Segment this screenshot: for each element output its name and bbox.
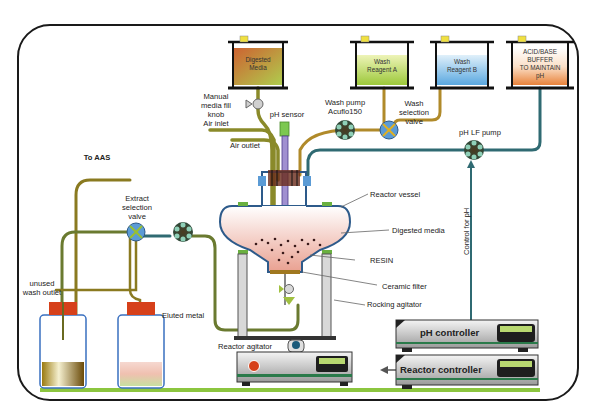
- label-manual-fill: Manual: [204, 92, 229, 101]
- label-to-aas: To AAS: [84, 153, 111, 162]
- reactor-controller[interactable]: Reactor controller: [396, 355, 538, 389]
- bottle-eluted-metal: [118, 302, 164, 388]
- extract-selection-valve-icon[interactable]: [127, 223, 145, 241]
- tank-label: BUFFER: [527, 56, 553, 63]
- label-extract-valve: selection: [122, 203, 152, 212]
- wash-pump-icon[interactable]: [335, 120, 355, 140]
- label-control-for-ph: Control for pH: [462, 208, 471, 255]
- label-wash-valve: Wash: [404, 99, 423, 108]
- floor-line: [40, 388, 540, 392]
- label-wash-valve: valve: [405, 117, 423, 126]
- wash-selection-valve-icon[interactable]: [380, 121, 398, 139]
- ceramic-filter: [270, 270, 300, 274]
- label-reactor-agitator: Reactor agitator: [218, 342, 272, 351]
- label-reactor-vessel: Reactor vessel: [370, 190, 421, 199]
- extract-pump-icon[interactable]: [173, 222, 193, 242]
- label-extract-valve: Extract: [125, 194, 150, 203]
- tank-label: ACID/BASE: [523, 48, 557, 55]
- ph-controller[interactable]: pH controller: [396, 320, 538, 352]
- tank-label: Reagent B: [447, 66, 477, 74]
- label-rocking-agitator: Rocking agitator: [367, 300, 422, 309]
- tank-wash-reagent-a: Wash Reagent A: [350, 36, 414, 88]
- label-ph-lf-pump: pH LF pump: [459, 128, 501, 137]
- diagram-canvas: Digested Media Wash Reagent A Wash Reage…: [0, 0, 595, 413]
- tank-label: Digested: [245, 56, 271, 64]
- label-ceramic-filter: Ceramic filter: [382, 282, 427, 291]
- drain-valve-icon[interactable]: [279, 274, 295, 305]
- tank-digested-media: Digested Media: [228, 36, 288, 88]
- label-air-outlet: Air outlet: [230, 141, 261, 150]
- arrow-head-reactor: [380, 366, 388, 374]
- label-wash-valve: selection: [399, 108, 429, 117]
- bottle-unused-wash: [40, 302, 86, 388]
- tank-acid-base-buffer: ACID/BASE BUFFER TO MAINTAIN pH: [506, 36, 574, 88]
- tank-label: Reagent A: [367, 66, 398, 74]
- tank-label: Media: [249, 64, 267, 71]
- tank-label: Wash: [454, 58, 471, 65]
- reactor-agitator-unit[interactable]: [237, 352, 352, 386]
- reactor-controller-label: Reactor controller: [400, 364, 482, 375]
- label-wash-pump: Acuflo150: [328, 107, 362, 116]
- label-wash-pump: Wash pump: [325, 98, 365, 107]
- label-air-inlet: Air inlet: [203, 119, 229, 128]
- label-extract-valve: valve: [128, 212, 146, 221]
- tank-label: Wash: [374, 58, 391, 65]
- label-unused-wash: unused: [30, 279, 55, 288]
- ph-controller-label: pH controller: [420, 327, 479, 338]
- tank-wash-reagent-b: Wash Reagent B: [430, 36, 494, 88]
- arrow-head-ph: [467, 160, 475, 168]
- tank-label: TO MAINTAIN: [520, 64, 561, 71]
- ph-lf-pump-icon[interactable]: [464, 140, 484, 160]
- label-unused-wash: wash outlet: [22, 288, 62, 297]
- label-manual-fill: knob: [208, 110, 224, 119]
- label-eluted-metal: Eluted metal: [162, 311, 205, 320]
- ph-sensor-probe: [280, 122, 289, 216]
- label-manual-fill: media fill: [201, 101, 231, 110]
- label-ph-sensor: pH sensor: [270, 110, 305, 119]
- manual-fill-knob-icon[interactable]: [246, 99, 263, 109]
- label-digested-media: Digested media: [392, 226, 446, 235]
- tank-label: pH: [536, 72, 545, 80]
- label-resin: RESIN: [370, 256, 393, 265]
